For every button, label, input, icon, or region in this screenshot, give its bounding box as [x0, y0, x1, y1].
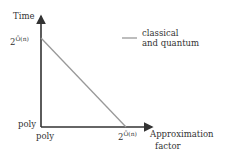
y-tick-top-exp: Õ(n)	[15, 35, 28, 42]
y-tick-bottom: poly	[18, 120, 36, 129]
y-tick-top: 2Õ(n)	[10, 38, 29, 47]
tradeoff-line	[41, 38, 126, 127]
x-tick-right-exp: Õ(n)	[123, 130, 136, 137]
x-axis-label-line1: Approximation	[150, 130, 214, 139]
legend-label-line2: and quantum	[142, 39, 199, 48]
y-axis-label: Time	[13, 12, 34, 21]
legend-label-line1: classical	[142, 29, 179, 38]
x-axis-label-line2: factor	[155, 142, 181, 151]
x-tick-left: poly	[36, 132, 54, 141]
x-tick-right: 2Õ(n)	[118, 133, 137, 142]
